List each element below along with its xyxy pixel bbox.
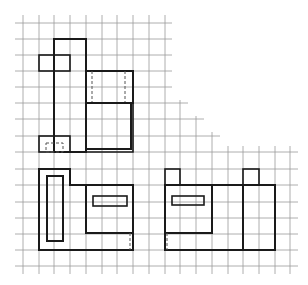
horizontal-slot [172, 196, 204, 205]
outer-body [165, 185, 275, 250]
diagram-canvas [0, 0, 308, 285]
left-tab [165, 169, 180, 185]
right-tab [243, 169, 259, 185]
top-view [39, 39, 133, 152]
horizontal-slot [93, 196, 127, 206]
lower-block [86, 103, 131, 149]
grid-paper [15, 15, 298, 274]
inner-block [165, 185, 212, 233]
lower-block-double-edge [86, 103, 133, 152]
vertical-slot [47, 176, 63, 241]
side-view [165, 169, 275, 250]
inner-block [86, 185, 133, 233]
